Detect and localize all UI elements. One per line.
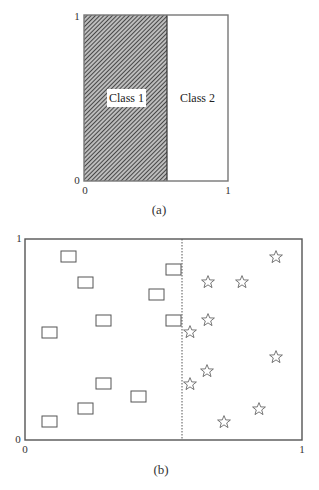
class-1-point	[96, 378, 111, 389]
panel-b-x-tick-right: 1	[299, 443, 305, 455]
class-2-point	[201, 365, 214, 377]
panel-b: 1 0 0 1 (b)	[15, 232, 305, 477]
panel-a: Class 1 Class 2 1 0 0 1 (a)	[74, 10, 231, 217]
figure-canvas: Class 1 Class 2 1 0 0 1 (a)	[0, 0, 319, 490]
panel-b-y-tick-top: 1	[16, 232, 22, 244]
class-1-point	[131, 391, 146, 402]
class-2-label: Class 2	[180, 91, 215, 105]
class-2-points	[184, 251, 283, 428]
class-2-point	[253, 403, 266, 415]
class-1-point	[42, 416, 57, 427]
class-1-point	[166, 315, 181, 326]
class-2-point	[236, 276, 249, 288]
panel-a-x-tick-left: 0	[82, 184, 88, 196]
panel-a-x-tick-right: 1	[225, 184, 231, 196]
class-1-point	[42, 327, 57, 338]
panel-b-x-tick-left: 0	[22, 443, 28, 455]
class-2-point	[184, 378, 197, 390]
class-1-point	[166, 264, 181, 275]
class-1-point	[149, 289, 164, 300]
class-2-point	[270, 251, 283, 263]
panel-a-caption: (a)	[152, 202, 166, 217]
class-1-point	[78, 277, 93, 288]
class-1-point	[96, 315, 111, 326]
class-2-point	[218, 416, 231, 428]
panel-a-y-tick-top: 1	[74, 10, 80, 22]
class-2-point	[202, 314, 215, 326]
panel-b-caption: (b)	[153, 462, 168, 477]
class-1-label: Class 1	[109, 91, 144, 105]
class-2-point	[270, 351, 283, 363]
class-1-points	[42, 251, 181, 427]
class-2-point	[202, 276, 215, 288]
panel-b-y-tick-bottom: 0	[15, 433, 21, 445]
panel-a-y-tick-bottom: 0	[74, 174, 80, 186]
class-2-point	[184, 326, 197, 338]
panel-b-frame	[25, 239, 302, 440]
class-1-point	[78, 403, 93, 414]
class-1-point	[61, 251, 76, 262]
